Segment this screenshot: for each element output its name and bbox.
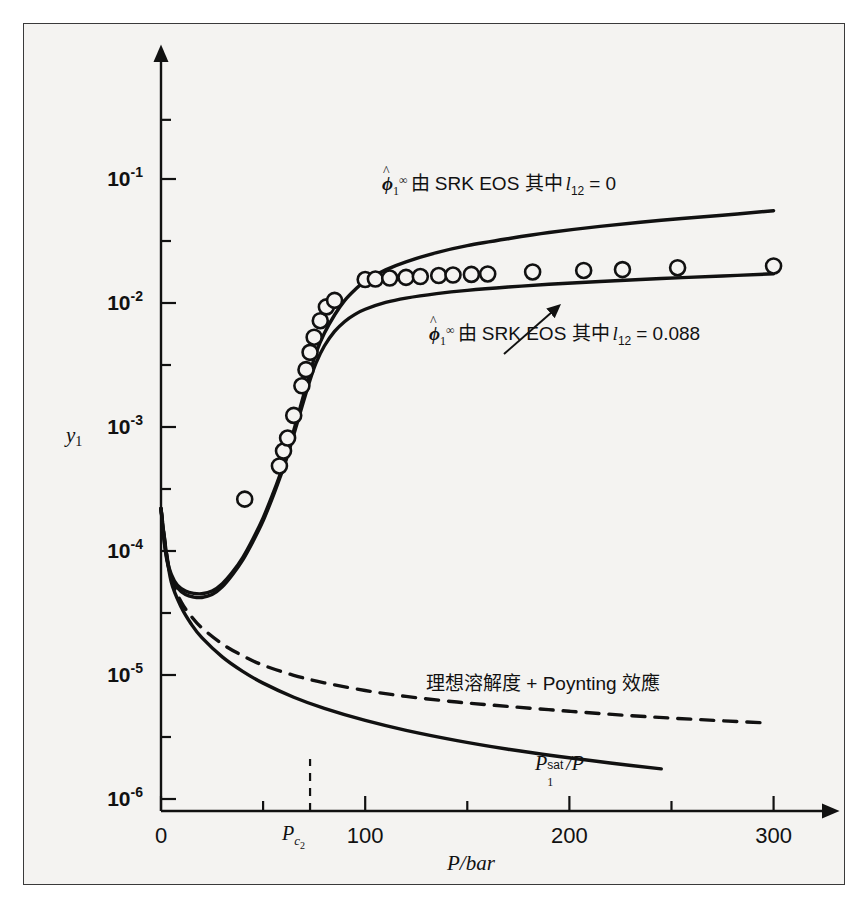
- data-point-markers: [237, 258, 781, 506]
- annotation-param-sub-l12-0088: 12: [618, 334, 631, 348]
- data-point-marker: [298, 362, 313, 377]
- chart-canvas: 10-110-210-310-410-510-6 0100200300: [24, 24, 846, 886]
- critical-pressure-subsubscript: 2: [300, 840, 305, 851]
- y-tick-label: 10-2: [107, 288, 143, 314]
- figure-frame: 10-110-210-310-410-510-6 0100200300 y1 P…: [23, 23, 845, 885]
- annotation-poynting-text: 理想溶解度 + Poynting 效應: [426, 673, 660, 694]
- annotation-value-l12-0: = 0: [589, 173, 616, 194]
- y-axis-minor-ticks: [161, 120, 171, 737]
- x-tick-label: 200: [551, 823, 588, 848]
- data-point-marker: [766, 258, 781, 273]
- y-tick-label: 10-4: [107, 536, 143, 562]
- y-axis-title-subscript: 1: [75, 434, 82, 449]
- data-point-marker: [480, 266, 495, 281]
- data-point-marker: [525, 264, 540, 279]
- data-point-marker: [382, 271, 397, 286]
- data-point-marker: [431, 268, 446, 283]
- curve-series-3: [161, 509, 661, 769]
- x-axis-tick-labels: 0100200300: [155, 823, 792, 848]
- x-axis-minor-ticks: [263, 801, 671, 811]
- annotation-p1sat-over-p: P sat 1 /P: [535, 752, 584, 775]
- data-point-marker: [413, 269, 428, 284]
- data-point-marker: [576, 263, 591, 278]
- y-tick-label: 10-5: [107, 660, 143, 686]
- annotation-param-sub-l12-0: 12: [571, 184, 584, 198]
- y-tick-label: 10-6: [107, 784, 143, 810]
- y-tick-label: 10-3: [107, 412, 143, 438]
- y-axis-title-symbol: y: [66, 423, 75, 447]
- y-axis-title: y1: [66, 423, 82, 450]
- data-point-marker: [670, 260, 685, 275]
- annotation-srk-l12-0: ^ϕ1∞由 SRK EOS 其中l12= 0: [382, 168, 616, 199]
- psat-denominator: /P: [566, 752, 584, 774]
- data-point-marker: [303, 345, 318, 360]
- x-tick-label: 300: [755, 823, 792, 848]
- annotation-ideal-solubility-poynting: 理想溶解度 + Poynting 效應: [426, 668, 660, 695]
- critical-pressure-label: Pc2: [282, 822, 305, 851]
- data-point-marker: [615, 262, 630, 277]
- data-point-marker: [368, 272, 383, 287]
- phi-superscript: ∞: [399, 173, 408, 187]
- data-point-marker: [237, 492, 252, 507]
- data-point-marker: [286, 408, 301, 423]
- x-axis-title: P/bar: [447, 851, 495, 876]
- x-tick-label: 100: [347, 823, 384, 848]
- y-tick-label: 10-1: [107, 164, 143, 190]
- phi-superscript-2: ∞: [446, 323, 455, 337]
- annotation-text-l12-0088: 由 SRK EOS 其中: [458, 323, 610, 344]
- annotation-value-l12-0088: = 0.088: [636, 323, 700, 344]
- data-point-marker: [445, 268, 460, 283]
- data-point-marker: [399, 270, 414, 285]
- data-point-marker: [307, 330, 322, 345]
- data-point-marker: [280, 431, 295, 446]
- phi-hat-symbol-2: ^ϕ: [429, 323, 440, 345]
- critical-pressure-symbol: P: [282, 822, 294, 844]
- annotation-text-l12-0: 由 SRK EOS 其中: [411, 173, 563, 194]
- data-point-marker: [294, 378, 309, 393]
- annotation-srk-l12-0088: ^ϕ1∞由 SRK EOS 其中l12= 0.088: [429, 318, 700, 349]
- y-axis-tick-labels: 10-110-210-310-410-510-6: [107, 164, 143, 810]
- data-point-marker: [272, 458, 287, 473]
- data-point-marker: [464, 267, 479, 282]
- phi-hat-symbol: ^ϕ: [382, 173, 393, 195]
- data-point-marker: [327, 293, 342, 308]
- psat-symbol: P: [535, 752, 547, 774]
- x-axis-title-text: P/bar: [447, 851, 495, 875]
- x-tick-label: 0: [155, 823, 167, 848]
